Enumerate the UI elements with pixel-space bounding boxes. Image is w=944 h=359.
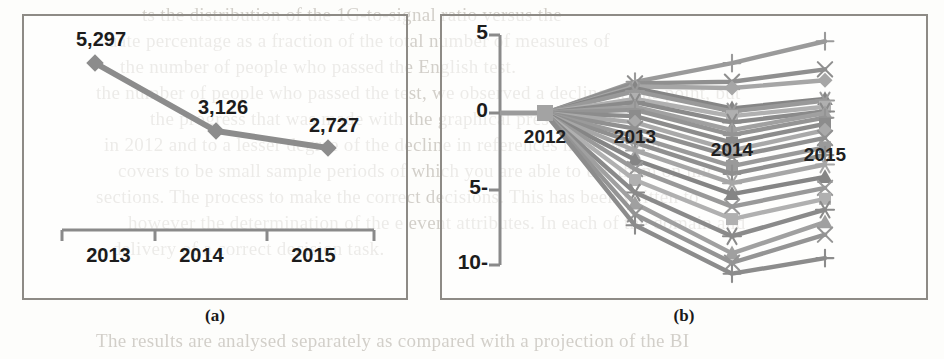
series-marker-plus (724, 55, 741, 72)
series-marker-triangle (817, 214, 833, 228)
panel-a-category-label: 2013 (62, 244, 155, 267)
panel-b-category-label: 2014 (702, 139, 762, 161)
panel-a-data-label: 2,727 (309, 114, 359, 137)
panel-b-category-label: 2015 (795, 144, 855, 166)
panel-a-data-label: 3,126 (198, 96, 248, 119)
panel-b-y-tick-label: 10- (444, 250, 488, 274)
series-marker-plus (817, 250, 834, 267)
panel-b-category-label: 2013 (605, 126, 665, 148)
panel-a-x-axis (62, 230, 374, 241)
panel-a-data-label: 5,297 (76, 28, 126, 51)
figure-page: 5,2973,1262,727 201320142015 (a) 505-10-… (0, 0, 944, 359)
panel-b-y-tick-label: 5- (444, 175, 488, 199)
panel-b-y-tick-label: 5 (444, 20, 488, 44)
panel-b-y-tick-label: 0 (444, 98, 488, 122)
series-marker-diamond (319, 139, 337, 157)
panel-a-category-label: 2014 (155, 244, 248, 267)
figure-panel-a: 5,2973,1262,727 201320142015 (22, 14, 408, 300)
series-marker-square (537, 105, 553, 121)
panel-b-caption: (b) (440, 306, 928, 326)
figure-panel-b: 505-10- 2012201320142015 (440, 14, 928, 300)
panel-b-category-label: 2012 (515, 126, 575, 148)
panel-b-y-axis (489, 35, 500, 265)
series-marker-asterisk (723, 228, 741, 244)
series-marker-plus (817, 33, 834, 50)
panel-a-category-label: 2015 (267, 244, 360, 267)
panel-a-caption: (a) (22, 306, 408, 326)
series-marker-square (726, 213, 738, 225)
